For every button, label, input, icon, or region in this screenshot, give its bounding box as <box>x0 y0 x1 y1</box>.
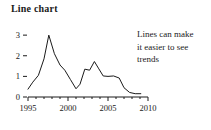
data-series-line <box>28 35 141 94</box>
y-tick-label: 0 <box>16 92 20 102</box>
x-tick-label: 2005 <box>100 103 117 113</box>
annotation-line-1: Lines can make <box>137 28 209 41</box>
y-tick-label: 2 <box>16 51 20 61</box>
x-tick-label: 2000 <box>60 103 77 113</box>
x-tick-label: 2010 <box>140 103 157 113</box>
x-axis: 1995200020052010 <box>20 97 157 113</box>
x-tick-label: 1995 <box>20 103 37 113</box>
y-tick-label: 3 <box>16 30 20 40</box>
y-tick-label: 1 <box>16 71 20 81</box>
annotation-line-3: trends <box>137 53 209 66</box>
annotation-line-2: it easier to see <box>137 41 209 54</box>
annotation-text: Lines can make it easier to see trends <box>137 28 209 66</box>
line-chart-figure: Line chart 0123 1995200020052010 Lines c… <box>0 0 211 130</box>
y-axis: 0123 <box>16 30 27 102</box>
